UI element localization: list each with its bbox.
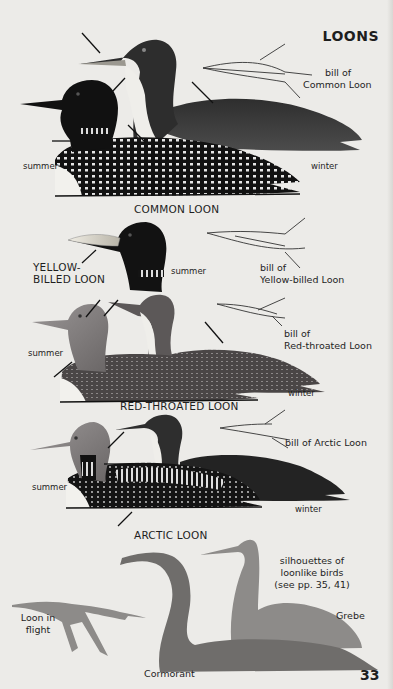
page-title: LOONS xyxy=(322,28,379,44)
red-throated-bill-label-1: bill of xyxy=(284,328,310,339)
common-loon-bill-label-1: bill of xyxy=(325,67,351,78)
common-loon-name: COMMON LOON xyxy=(134,204,219,215)
yellow-billed-summer-label: summer xyxy=(171,266,206,277)
red-throated-winter-label: winter xyxy=(288,388,315,399)
page-number: 33 xyxy=(360,667,379,683)
silhouettes-caption-1: silhouettes of xyxy=(272,555,352,566)
arctic-loon-bill-diagram xyxy=(220,410,290,448)
common-loon-bill-diagram xyxy=(203,44,312,98)
arctic-bill-label: bill of Arctic Loon xyxy=(285,437,367,448)
common-loon-winter-label: winter xyxy=(311,161,338,172)
loon-flight-label-2: flight xyxy=(16,624,60,635)
silhouettes-caption-2: loonlike birds xyxy=(272,567,352,578)
red-throated-summer-label: summer xyxy=(28,348,63,359)
grebe-label: Grebe xyxy=(336,610,365,621)
yellow-billed-loon-name-1: YELLOW- xyxy=(33,262,81,273)
arctic-winter-label: winter xyxy=(295,504,322,515)
red-throated-bill-diagram xyxy=(217,298,285,326)
common-loon-bill-label-2: Common Loon xyxy=(303,79,372,90)
yellow-billed-arrow xyxy=(82,250,96,263)
common-loon-summer-label: summer xyxy=(23,161,58,172)
arctic-loon-name: ARCTIC LOON xyxy=(134,530,208,541)
arctic-summer-label: summer xyxy=(32,482,67,493)
loon-flight-label-1: Loon in xyxy=(16,612,60,623)
red-throated-loon-name: RED-THROATED LOON xyxy=(120,401,239,412)
common-loon-winter-illustration xyxy=(78,40,362,151)
cormorant-label: Cormorant xyxy=(144,668,195,679)
yellow-billed-bill-label-1: bill of xyxy=(260,262,286,273)
yellow-billed-loon-name-2: BILLED LOON xyxy=(33,274,105,285)
silhouettes-caption-3: (see pp. 35, 41) xyxy=(266,579,358,590)
red-throated-bill-label-2: Red-throated Loon xyxy=(284,340,372,351)
field-guide-page: LOONS bill of Common Loon summer winter … xyxy=(0,0,393,689)
yellow-billed-bill-label-2: Yellow-billed Loon xyxy=(260,274,344,285)
yellow-billed-bill-diagram xyxy=(207,218,305,268)
